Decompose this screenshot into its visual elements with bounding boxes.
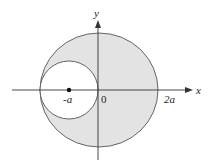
y-axis-label: y (93, 7, 99, 19)
tick-label-origin: 0 (101, 93, 107, 105)
tick-label-2a: 2a (164, 93, 176, 105)
diagram-figure: x y -a 0 2a (0, 0, 213, 168)
y-axis-arrow-icon (95, 20, 101, 28)
tick-label-neg-a: -a (63, 93, 73, 105)
x-axis-arrow-icon (185, 87, 193, 93)
x-axis-label: x (195, 84, 201, 96)
center-dot (67, 88, 71, 92)
